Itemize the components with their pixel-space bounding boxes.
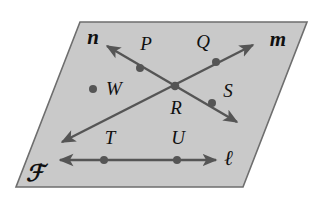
point-dot-U[interactable] bbox=[173, 156, 181, 164]
point-label-W: W bbox=[106, 78, 124, 99]
line-label-l: ℓ bbox=[225, 146, 234, 170]
point-label-T: T bbox=[105, 127, 117, 148]
point-dot-S[interactable] bbox=[208, 99, 216, 107]
point-dot-R[interactable] bbox=[171, 82, 180, 91]
line-label-n: n bbox=[87, 25, 99, 49]
line-label-m: m bbox=[270, 27, 286, 51]
point-label-P: P bbox=[139, 33, 152, 54]
point-dot-P[interactable] bbox=[136, 64, 144, 72]
point-dot-W[interactable] bbox=[89, 85, 97, 93]
point-dot-T[interactable] bbox=[100, 156, 108, 164]
point-label-U: U bbox=[171, 127, 186, 148]
geometry-canvas: P Q R S T U W n m ℓ ℱ bbox=[0, 0, 317, 209]
point-dot-Q[interactable] bbox=[212, 58, 220, 66]
point-label-Q: Q bbox=[196, 31, 210, 52]
point-label-R: R bbox=[169, 97, 182, 118]
plane-shape bbox=[16, 22, 307, 187]
point-label-S: S bbox=[223, 80, 233, 101]
geometry-diagram: P Q R S T U W n m ℓ ℱ bbox=[0, 0, 317, 209]
